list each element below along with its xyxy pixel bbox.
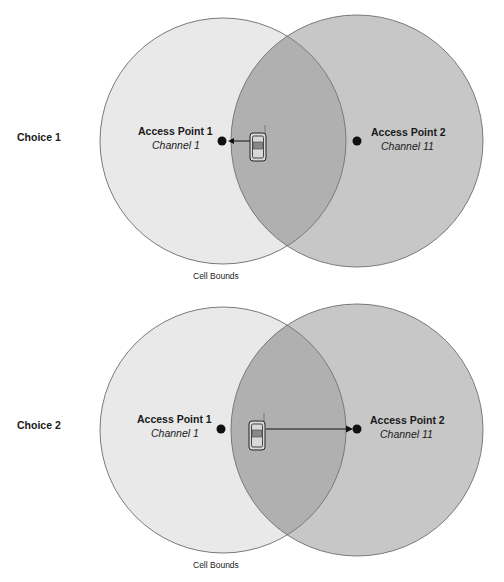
cell-bounds-label: Cell Bounds bbox=[193, 560, 239, 570]
access-point-1-dot-icon bbox=[218, 137, 227, 146]
cell-bounds-label: Cell Bounds bbox=[193, 271, 239, 281]
choice-label: Choice 2 bbox=[17, 419, 61, 431]
access-point-2-name: Access Point 2 bbox=[370, 414, 445, 426]
choice-label: Choice 1 bbox=[17, 131, 61, 143]
access-point-2-channel: Channel 11 bbox=[380, 428, 433, 440]
access-point-2-dot-icon bbox=[353, 425, 362, 434]
access-point-2-name: Access Point 2 bbox=[371, 126, 446, 138]
access-point-1-channel: Channel 1 bbox=[152, 139, 200, 151]
access-point-2-channel: Channel 11 bbox=[381, 140, 434, 152]
access-point-1-name: Access Point 1 bbox=[138, 125, 213, 137]
access-point-1-name: Access Point 1 bbox=[137, 413, 212, 425]
choice-2-diagram: Choice 2 Access Point 1 Channel 1 Access… bbox=[0, 289, 504, 580]
access-point-1-channel: Channel 1 bbox=[151, 427, 199, 439]
access-point-1-dot-icon bbox=[217, 425, 226, 434]
access-point-2-dot-icon bbox=[353, 137, 362, 146]
choice-1-diagram: Choice 1 Access Point 1 Channel 1 Access… bbox=[0, 0, 504, 291]
